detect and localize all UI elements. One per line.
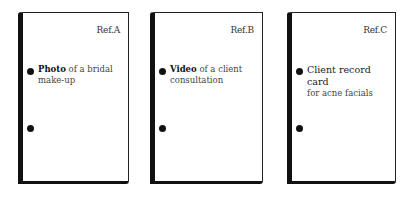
bullet-hole-bottom-icon: [296, 125, 303, 132]
card-description-keyword: Photo: [38, 64, 66, 74]
card-description: Video of a client consultation: [170, 64, 256, 86]
bullet-hole-top-icon: [159, 68, 166, 75]
card-description-title: Client record card: [307, 64, 371, 87]
card-reference-label: Ref.B: [230, 25, 254, 35]
reference-card-b: Ref.B Video of a client consultation: [150, 12, 263, 184]
bullet-hole-top-icon: [27, 68, 34, 75]
reference-card-c: Ref.C Client record card for acne facial…: [287, 12, 396, 184]
card-description-subtitle: for acne facials: [307, 88, 389, 99]
bullet-hole-top-icon: [296, 68, 303, 75]
card-reference-label: Ref.A: [97, 25, 120, 35]
reference-card-a: Ref.A Photo of a bridal make-up: [18, 12, 129, 184]
card-description: Client record card for acne facials: [307, 64, 389, 99]
card-reference-label: Ref.C: [363, 25, 387, 35]
card-description-keyword: Video: [170, 64, 197, 74]
card-description: Photo of a bridal make-up: [38, 64, 122, 86]
bullet-hole-bottom-icon: [159, 125, 166, 132]
bullet-hole-bottom-icon: [27, 125, 34, 132]
